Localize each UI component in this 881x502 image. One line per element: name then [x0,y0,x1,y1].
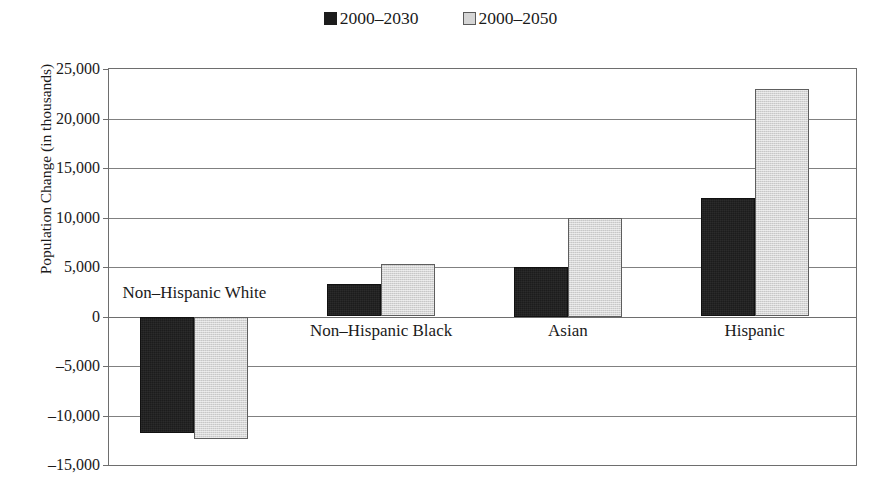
bar [701,198,755,317]
plot-area: 25,00020,00015,00010,0005,0000–5,000–10,… [108,68,857,466]
bar [140,317,194,434]
chart-legend: 2000–2030 2000–2050 [0,10,881,28]
y-axis-tick-label: 10,000 [56,209,100,227]
y-axis-tick-label: –15,000 [48,456,100,474]
gridline [109,119,856,120]
y-axis-tick [103,267,109,268]
y-axis-tick [103,465,109,466]
legend-entry-2000-2030: 2000–2030 [324,10,419,28]
y-axis-tick-label: 20,000 [56,110,100,128]
y-axis-tick-label: 0 [92,308,100,326]
y-axis-tick [103,416,109,417]
legend-swatch-dark-square-icon [324,12,337,25]
legend-entry-2000-2050: 2000–2050 [463,10,558,28]
y-axis-tick-label: 25,000 [56,60,100,78]
y-axis-title: Population Change (in thousands) [37,39,55,299]
y-axis-tick [103,69,109,70]
category-label: Asian [548,321,588,341]
gridline [109,168,856,169]
y-axis-tick-label: 5,000 [64,258,100,276]
y-axis-tick-label: 15,000 [56,159,100,177]
bar [327,284,381,317]
category-label: Hispanic [724,321,784,341]
y-axis-tick [103,119,109,120]
legend-swatch-light-square-icon [463,12,476,25]
y-axis-tick [103,366,109,367]
y-axis-tick [103,317,109,318]
bar [568,218,622,317]
bar [194,317,248,440]
legend-label-2000-2030: 2000–2030 [340,10,419,28]
y-axis-tick-label: –10,000 [48,407,100,425]
legend-label-2000-2050: 2000–2050 [479,10,558,28]
bar-chart-figure: 2000–2030 2000–2050 Population Change (i… [0,0,881,502]
bar [514,267,568,317]
y-axis-tick [103,218,109,219]
y-axis-tick [103,168,109,169]
bar [755,89,809,317]
category-label: Non–Hispanic Black [310,321,452,341]
category-label: Non–Hispanic White [123,283,267,303]
bar [381,264,435,316]
y-axis-tick-label: –5,000 [56,357,100,375]
